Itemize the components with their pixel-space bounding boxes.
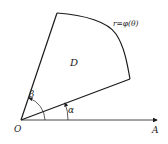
ray-beta xyxy=(21,13,57,120)
polar-region-diagram: D r=φ(θ) O A α β xyxy=(0,0,168,144)
ray-alpha xyxy=(21,79,130,120)
curve-label: r=φ(θ) xyxy=(113,19,139,28)
axis-label: A xyxy=(151,125,159,135)
angle-alpha-label: α xyxy=(68,105,74,115)
angle-beta-label: β xyxy=(28,89,34,99)
region-label: D xyxy=(69,57,78,68)
origin-label: O xyxy=(14,124,22,134)
